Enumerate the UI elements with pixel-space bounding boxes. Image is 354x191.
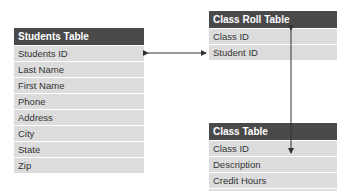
relationship-arrows: [0, 0, 354, 191]
